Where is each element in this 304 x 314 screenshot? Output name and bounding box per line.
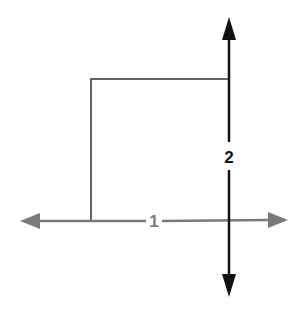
down-arrowhead-icon <box>222 274 236 297</box>
left-arrowhead-icon <box>20 213 40 229</box>
up-arrowhead-icon <box>222 17 236 40</box>
horizontal-axis-label: 1 <box>149 212 158 231</box>
bracket-line <box>91 79 229 220</box>
vertical-axis-label: 2 <box>224 148 233 167</box>
right-arrowhead-icon <box>268 212 288 228</box>
vector-diagram: 1 2 <box>0 0 304 314</box>
